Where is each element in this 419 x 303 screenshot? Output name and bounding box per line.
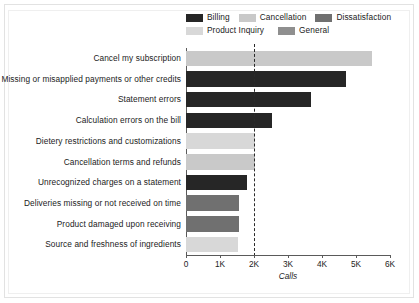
bar-row: Statement errors (186, 89, 390, 110)
bar[interactable] (186, 154, 255, 170)
legend-entry-billing[interactable]: Billing (186, 13, 230, 22)
bar[interactable] (186, 237, 238, 253)
plot-area: Cancel my subscriptionMissing or misappl… (186, 48, 390, 255)
bar-row: Product damaged upon receiving (186, 214, 390, 235)
legend-entry-cancellation[interactable]: Cancellation (239, 13, 307, 22)
reference-line-2k (254, 44, 255, 256)
bar-row: Missing or misapplied payments or other … (186, 69, 390, 90)
category-label: Product damaged upon receiving (57, 214, 181, 235)
bar[interactable] (186, 113, 272, 129)
legend-entry-general[interactable]: General (278, 26, 329, 35)
category-label: Unrecognized charges on a statement (38, 172, 181, 193)
category-label: Deliveries missing or not received on ti… (24, 193, 181, 214)
bar[interactable] (186, 175, 247, 191)
bar-row: Source and freshness of ingredients (186, 234, 390, 255)
legend-row-2: Product Inquiry General (186, 25, 414, 36)
bar[interactable] (186, 195, 239, 211)
legend-label-product-inquiry: Product Inquiry (207, 26, 264, 35)
x-tick (356, 255, 357, 258)
legend-swatch-dissatisfaction (315, 14, 332, 22)
x-tick-label: 6K (375, 259, 405, 269)
x-tick-label: 5K (341, 259, 371, 269)
x-tick (220, 255, 221, 258)
bar[interactable] (186, 92, 311, 108)
x-tick (288, 255, 289, 258)
category-label: Dietery restrictions and customizations (36, 131, 181, 152)
category-label: Missing or misapplied payments or other … (1, 69, 181, 90)
bar[interactable] (186, 133, 255, 149)
legend-row-1: Billing Cancellation Dissatisfaction (186, 12, 414, 23)
legend-label-cancellation: Cancellation (260, 13, 307, 22)
bar[interactable] (186, 71, 346, 87)
bar-row: Cancellation terms and refunds (186, 152, 390, 173)
legend-swatch-general (278, 27, 295, 35)
legend-entry-product-inquiry[interactable]: Product Inquiry (186, 26, 264, 35)
bar[interactable] (186, 51, 372, 67)
chart-legend: Billing Cancellation Dissatisfaction Pro… (186, 12, 414, 38)
legend-entry-dissatisfaction[interactable]: Dissatisfaction (315, 13, 391, 22)
bar-row: Deliveries missing or not received on ti… (186, 193, 390, 214)
x-tick-label: 3K (273, 259, 303, 269)
category-label: Source and freshness of ingredients (45, 234, 181, 255)
legend-swatch-cancellation (239, 14, 256, 22)
x-tick (390, 255, 391, 258)
legend-label-dissatisfaction: Dissatisfaction (336, 13, 391, 22)
category-label: Statement errors (118, 89, 181, 110)
x-tick (322, 255, 323, 258)
x-tick (186, 255, 187, 258)
x-tick-label: 2K (239, 259, 269, 269)
legend-swatch-billing (186, 14, 203, 22)
category-label: Calculation errors on the bill (76, 110, 181, 131)
category-label: Cancel my subscription (93, 48, 181, 69)
x-tick-label: 4K (307, 259, 337, 269)
x-tick-label: 1K (205, 259, 235, 269)
bar-row: Cancel my subscription (186, 48, 390, 69)
x-tick-label: 0 (171, 259, 201, 269)
legend-swatch-product-inquiry (186, 27, 203, 35)
x-tick (254, 255, 255, 258)
x-axis-label: Calls (186, 271, 390, 281)
legend-label-billing: Billing (207, 13, 230, 22)
bar[interactable] (186, 216, 239, 232)
bar-row: Unrecognized charges on a statement (186, 172, 390, 193)
chart-figure: Billing Cancellation Dissatisfaction Pro… (0, 0, 419, 303)
category-label: Cancellation terms and refunds (64, 152, 181, 173)
legend-label-general: General (299, 26, 329, 35)
bar-row: Dietery restrictions and customizations (186, 131, 390, 152)
bar-row: Calculation errors on the bill (186, 110, 390, 131)
